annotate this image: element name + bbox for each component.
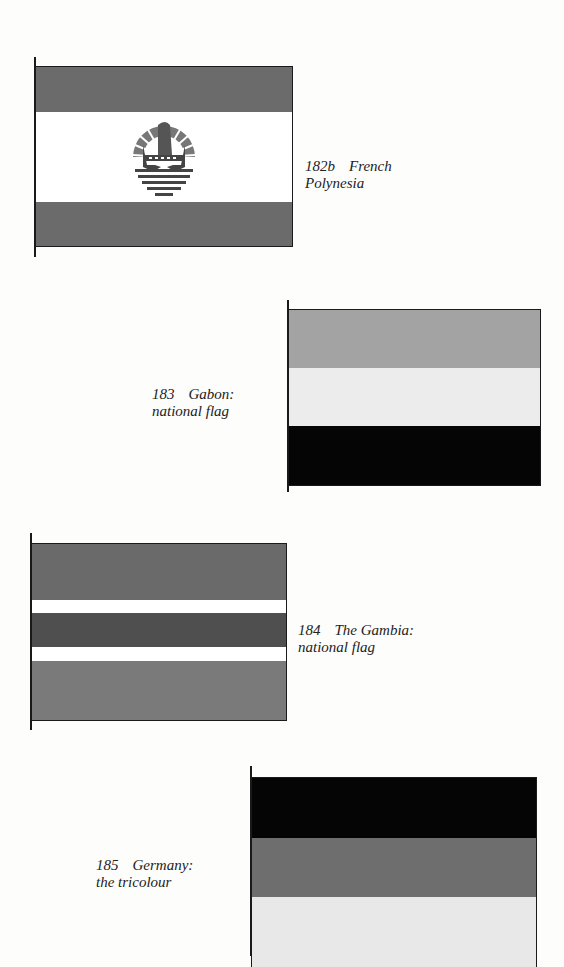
stripe-red: [252, 838, 536, 897]
stripe-red: [32, 544, 286, 600]
stripe-top: [36, 67, 292, 112]
flag-number: 185: [96, 857, 119, 873]
flag-caption-line2: Polynesia: [305, 175, 392, 192]
caption-french-polynesia: 182bFrench Polynesia: [305, 158, 392, 192]
coat-of-arms-icon: [125, 117, 203, 199]
flag-number: 182b: [305, 158, 335, 174]
stripe-blue: [32, 613, 286, 647]
flag-germany: [251, 777, 537, 967]
flag-name: French: [349, 158, 392, 174]
flag-caption-line2: national flag: [298, 639, 414, 656]
stripe-bottom: [36, 202, 292, 247]
stripe-green: [32, 661, 286, 721]
stripe-white-1: [32, 600, 286, 613]
caption-germany: 185Germany: the tricolour: [96, 857, 193, 891]
flag-name: Germany:: [133, 857, 194, 873]
stripe-gold: [252, 897, 536, 967]
flag-number: 183: [152, 386, 175, 402]
flag-caption-line2: the tricolour: [96, 874, 193, 891]
stripe-bottom: [289, 426, 540, 486]
flag-gabon: [288, 309, 541, 486]
stripe-black: [252, 778, 536, 838]
flag-number: 184: [298, 622, 321, 638]
caption-gambia: 184The Gambia: national flag: [298, 622, 414, 656]
flag-gambia: [31, 543, 287, 721]
flag-caption-line2: national flag: [152, 403, 234, 420]
flag-name: Gabon:: [189, 386, 235, 402]
stripe-top: [289, 310, 540, 368]
flag-name: The Gambia:: [335, 622, 415, 638]
stripe-middle: [289, 368, 540, 426]
caption-gabon: 183Gabon: national flag: [152, 386, 234, 420]
flag-french-polynesia: [35, 66, 293, 247]
stripe-white-2: [32, 647, 286, 661]
